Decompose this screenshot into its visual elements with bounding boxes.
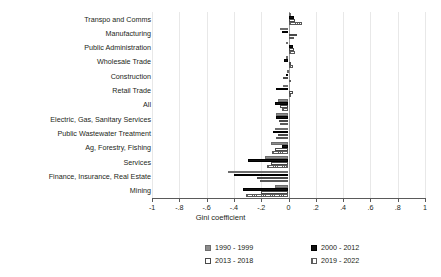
x-tick-label: -.8 xyxy=(167,203,191,212)
legend-label-2: 2013 - 2018 xyxy=(215,256,253,265)
bar xyxy=(289,94,292,97)
legend-item-1[interactable]: 2000 - 2012 xyxy=(311,243,359,252)
x-tick xyxy=(207,198,208,202)
legend-item-0[interactable]: 1990 - 1999 xyxy=(205,243,253,252)
chart-row: All xyxy=(0,98,441,112)
legend-swatch-icon-0 xyxy=(205,245,211,251)
x-tick xyxy=(425,198,426,202)
category-label: Finance, Insurance, Real Estate xyxy=(0,173,151,180)
category-label: Mining xyxy=(0,187,151,194)
category-label: All xyxy=(0,101,151,108)
category-label: Electric, Gas, Sanitary Services xyxy=(0,116,151,123)
legend-swatch-icon-2 xyxy=(205,258,211,264)
category-label: Wholesale Trade xyxy=(0,58,151,65)
bar-group xyxy=(152,112,425,126)
bar-group xyxy=(152,41,425,55)
x-tick xyxy=(234,198,235,202)
x-tick-label: -.4 xyxy=(222,203,246,212)
bar xyxy=(289,65,293,68)
bar-group xyxy=(152,155,425,169)
chart-row: Electric, Gas, Sanitary Services xyxy=(0,112,441,126)
chart-row: Public Wastewater Treatment xyxy=(0,126,441,140)
bar xyxy=(246,194,288,197)
chart-row: Ag, Forestry, Fishing xyxy=(0,141,441,155)
bar xyxy=(276,88,288,91)
x-tick xyxy=(398,198,399,202)
legend-label-3: 2019 - 2022 xyxy=(321,256,359,265)
bar xyxy=(282,31,289,34)
x-tick-label: .2 xyxy=(304,203,328,212)
chart-row: Retail Trade xyxy=(0,84,441,98)
x-tick xyxy=(179,198,180,202)
x-tick xyxy=(370,198,371,202)
legend-item-3[interactable]: 2019 - 2022 xyxy=(311,256,359,265)
legend-swatch-icon-3 xyxy=(311,258,317,264)
legend-swatch-icon-1 xyxy=(311,245,317,251)
x-tick-label: -.2 xyxy=(249,203,273,212)
chart-row: Mining xyxy=(0,184,441,198)
bar xyxy=(289,51,296,54)
category-label: Transpo and Comms xyxy=(0,16,151,23)
x-tick xyxy=(343,198,344,202)
legend: 1990 - 1999 2000 - 2012 2013 - 2018 2019… xyxy=(205,243,435,271)
x-tick xyxy=(289,198,290,202)
chart-row: Construction xyxy=(0,69,441,83)
legend-item-2[interactable]: 2013 - 2018 xyxy=(205,256,253,265)
category-label: Manufacturing xyxy=(0,30,151,37)
bar-group xyxy=(152,69,425,83)
x-tick-label: .6 xyxy=(358,203,382,212)
bar-group xyxy=(152,169,425,183)
bar-group xyxy=(152,141,425,155)
bar-group xyxy=(152,84,425,98)
legend-label-0: 1990 - 1999 xyxy=(215,243,253,252)
x-tick xyxy=(316,198,317,202)
chart-row: Manufacturing xyxy=(0,26,441,40)
x-tick-label: .8 xyxy=(386,203,410,212)
category-label: Services xyxy=(0,159,151,166)
legend-label-1: 2000 - 2012 xyxy=(321,243,359,252)
bar xyxy=(267,165,289,168)
bar xyxy=(289,80,292,83)
x-tick-label: -.6 xyxy=(195,203,219,212)
chart-row: Transpo and Comms xyxy=(0,12,441,26)
bar-group xyxy=(152,126,425,140)
category-label: Construction xyxy=(0,73,151,80)
chart-row: Wholesale Trade xyxy=(0,55,441,69)
bar xyxy=(289,37,294,40)
category-label: Retail Trade xyxy=(0,87,151,94)
gini-coefficient-bar-chart: Transpo and CommsManufacturingPublic Adm… xyxy=(0,0,441,277)
bar-group xyxy=(152,184,425,198)
x-axis-title: Gini coefficient xyxy=(0,213,441,222)
x-tick xyxy=(152,198,153,202)
bar xyxy=(272,151,288,154)
bar-group xyxy=(152,12,425,26)
chart-row: Finance, Insurance, Real Estate xyxy=(0,169,441,183)
chart-row: Services xyxy=(0,155,441,169)
bar xyxy=(282,108,289,111)
x-tick-label: .4 xyxy=(331,203,355,212)
x-tick-label: 1 xyxy=(413,203,437,212)
x-tick-label: 0 xyxy=(277,203,301,212)
bar xyxy=(280,123,288,126)
bar-group xyxy=(152,26,425,40)
chart-row: Public Administration xyxy=(0,41,441,55)
bar xyxy=(276,137,288,140)
bar xyxy=(260,180,289,183)
bar xyxy=(289,22,303,25)
bar-group xyxy=(152,55,425,69)
category-label: Public Administration xyxy=(0,44,151,51)
x-tick-label: -1 xyxy=(140,203,164,212)
category-label: Ag, Forestry, Fishing xyxy=(0,144,151,151)
category-label: Public Wastewater Treatment xyxy=(0,130,151,137)
bar-group xyxy=(152,98,425,112)
x-tick xyxy=(261,198,262,202)
